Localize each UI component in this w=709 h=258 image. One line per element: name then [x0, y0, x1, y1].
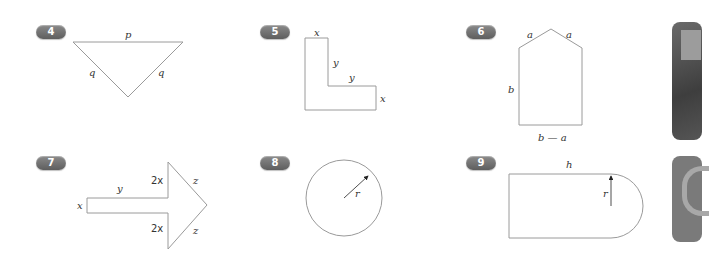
label-a-left: a	[527, 29, 533, 40]
pentagon-figure: a a b b — a	[508, 29, 582, 143]
label-z-top: z	[192, 175, 199, 186]
label-h: h	[566, 159, 572, 170]
label-q-left: q	[89, 67, 95, 78]
label-x-shaft: x	[77, 200, 83, 211]
label-y-horizontal: y	[348, 72, 355, 83]
semicircle-rect-figure: r h	[509, 159, 643, 238]
circle-figure: r	[306, 160, 382, 236]
label-2x-bottom: 2x	[151, 223, 163, 234]
label-b-minus-a: b — a	[538, 132, 567, 143]
label-r: r	[355, 188, 361, 199]
label-2x-top: 2x	[151, 175, 163, 186]
arrow-figure: x y 2x 2x z z	[77, 162, 207, 249]
triangle-figure: p q q	[73, 29, 183, 97]
label-q-right: q	[158, 67, 164, 78]
label-x-right: x	[380, 93, 386, 104]
l-shape-figure: x y y x	[305, 27, 386, 110]
label-y-shaft: y	[116, 183, 123, 194]
label-a-right: a	[566, 29, 572, 40]
label-r: r	[603, 188, 609, 199]
label-b: b	[508, 84, 514, 95]
label-x-top: x	[314, 27, 320, 38]
label-z-bottom: z	[192, 225, 199, 236]
label-y-vertical: y	[332, 57, 339, 68]
label-p: p	[125, 29, 132, 40]
